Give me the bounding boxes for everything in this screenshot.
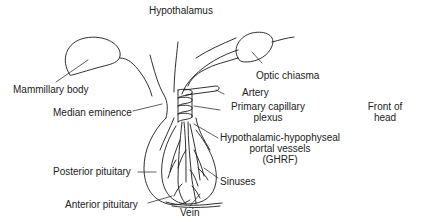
- label-front-of-head-line2: head: [363, 112, 407, 123]
- hypothalamus-right-line: [196, 38, 236, 58]
- label-vein: Vein: [180, 207, 199, 218]
- label-portal-vessels-line2: portal vessels: [220, 143, 340, 154]
- optic-nerve-line: [272, 37, 294, 42]
- label-primary-capillary-plexus-line2: plexus: [222, 112, 314, 123]
- label-optic-chiasma: Optic chiasma: [256, 70, 319, 81]
- label-front-of-head: Front of head: [363, 101, 407, 123]
- label-hypothalamus: Hypothalamus: [149, 5, 213, 16]
- label-primary-capillary-plexus-line1: Primary capillary: [222, 101, 314, 112]
- optic-tract-upper: [182, 50, 238, 94]
- label-posterior-pituitary: Posterior pituitary: [53, 166, 131, 177]
- hypothalamic-pituitary-diagram: Hypothalamus Mammillary body Optic chias…: [0, 0, 423, 222]
- stalk-left-outline: [150, 55, 167, 118]
- label-portal-vessels-line1: Hypothalamic-hypophyseal: [220, 132, 340, 143]
- label-front-of-head-line1: Front of: [363, 101, 407, 112]
- stalk-inner-line: [174, 42, 178, 92]
- label-portal-vessels-line3: (GHRF): [220, 154, 340, 165]
- infundibulum-right: [196, 118, 210, 150]
- label-artery: Artery: [242, 87, 269, 98]
- capillary-coil: [178, 89, 192, 122]
- label-median-eminence: Median eminence: [53, 107, 132, 118]
- artery-vessel: [184, 86, 219, 95]
- label-primary-capillary-plexus: Primary capillary plexus: [222, 101, 314, 123]
- portal-vessels: [168, 122, 208, 204]
- optic-tract-lower: [188, 58, 238, 86]
- label-portal-vessels: Hypothalamic-hypophyseal portal vessels …: [220, 132, 340, 165]
- hypothalamus-floor-line: [120, 58, 152, 96]
- label-sinuses: Sinuses: [220, 176, 256, 187]
- optic-chiasma-shape: [236, 32, 273, 62]
- label-anterior-pituitary: Anterior pituitary: [65, 199, 138, 210]
- label-mammillary-body: Mammillary body: [13, 84, 89, 95]
- posterior-pituitary-lobe: [144, 118, 190, 205]
- mammillary-body-shape: [65, 37, 120, 75]
